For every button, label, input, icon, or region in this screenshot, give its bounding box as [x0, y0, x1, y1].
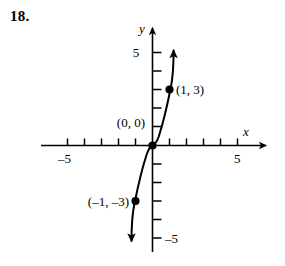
point-label-1-3: (1, 3)	[176, 82, 204, 97]
y-axis-label: y	[137, 21, 145, 36]
coordinate-plot: x y –5 5 5 –5 (1, 3) (0, 0) (–1, –3)	[0, 0, 285, 266]
x-tick-label-5: 5	[234, 151, 241, 166]
point-marker-minus1-minus3	[131, 197, 139, 205]
axes-group: x y –5 5 5 –5	[41, 21, 266, 252]
x-axis-label: x	[242, 124, 249, 139]
point-label-minus1-minus3: (–1, –3)	[88, 194, 129, 209]
point-label-0-0: (0, 0)	[117, 115, 145, 130]
x-tick-label-minus5: –5	[57, 151, 71, 166]
point-marker-1-3	[165, 85, 173, 93]
y-tick-label-minus5: –5	[164, 231, 178, 246]
figure-container: 18.	[0, 0, 285, 266]
y-tick-label-5: 5	[133, 45, 140, 60]
point-marker-0-0	[148, 141, 156, 149]
